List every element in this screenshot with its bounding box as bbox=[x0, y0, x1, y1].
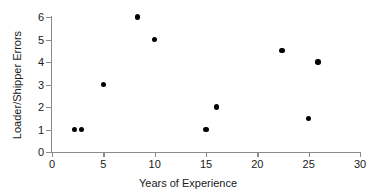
y-tick bbox=[46, 107, 51, 108]
data-point bbox=[203, 127, 208, 132]
x-tick bbox=[309, 152, 310, 157]
x-tick-label: 5 bbox=[100, 158, 106, 171]
y-tick-label: 0 bbox=[32, 146, 44, 159]
x-tick bbox=[360, 152, 361, 157]
x-tick bbox=[257, 152, 258, 157]
x-tick-label: 30 bbox=[354, 158, 366, 171]
y-tick-label: 5 bbox=[32, 33, 44, 46]
y-axis-title: Loader/Shipper Errors bbox=[10, 15, 24, 155]
y-tick bbox=[46, 62, 51, 63]
x-tick-label: 10 bbox=[149, 158, 161, 171]
data-point bbox=[315, 59, 320, 64]
y-tick bbox=[46, 85, 51, 86]
y-tick bbox=[46, 40, 51, 41]
x-tick bbox=[52, 152, 53, 157]
y-tick bbox=[46, 130, 51, 131]
x-tick bbox=[155, 152, 156, 157]
x-tick-label: 0 bbox=[49, 158, 55, 171]
x-tick-label: 15 bbox=[200, 158, 212, 171]
x-tick-label: 20 bbox=[251, 158, 263, 171]
x-tick bbox=[103, 152, 104, 157]
y-tick bbox=[46, 17, 51, 18]
y-tick-label: 1 bbox=[32, 123, 44, 136]
y-tick bbox=[46, 152, 51, 153]
y-tick-label: 4 bbox=[32, 56, 44, 69]
y-tick-label: 3 bbox=[32, 78, 44, 91]
scatter-chart: 051015202530 0123456 Years of Experience… bbox=[0, 0, 376, 196]
data-point bbox=[214, 104, 219, 109]
data-point bbox=[135, 14, 140, 19]
y-tick-label: 6 bbox=[32, 11, 44, 24]
x-tick bbox=[206, 152, 207, 157]
y-tick-label: 2 bbox=[32, 101, 44, 114]
x-tick-label: 25 bbox=[303, 158, 315, 171]
x-axis-title: Years of Experience bbox=[0, 176, 376, 190]
